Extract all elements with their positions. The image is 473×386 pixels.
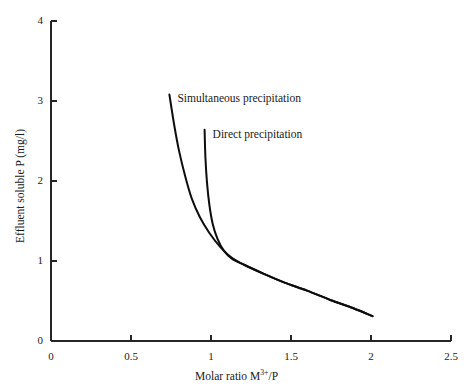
- chart-page: 01234 00.511.522.5 Simultaneous precipit…: [0, 0, 473, 386]
- x-tick-label: 0: [31, 351, 71, 362]
- x-tick-label: 2: [351, 351, 391, 362]
- y-tick-label: 1: [13, 255, 43, 266]
- y-tick-label: 3: [13, 95, 43, 106]
- y-axis-title: Effluent soluble P (mg/l): [14, 129, 26, 243]
- y-tick-label: 0: [13, 335, 43, 346]
- x-axis-title-suffix: /P: [268, 370, 278, 382]
- x-axis-ticks: [131, 335, 451, 341]
- x-tick-label: 2.5: [431, 351, 471, 362]
- x-axis-title-prefix: Molar ratio M: [195, 370, 260, 382]
- plot-area: [0, 0, 473, 386]
- curve-label-direct-precipitation: Direct precipitation: [213, 128, 303, 140]
- x-tick-label: 0.5: [111, 351, 151, 362]
- x-tick-label: 1: [191, 351, 231, 362]
- x-axis-title: Molar ratio M3+/P: [0, 370, 473, 382]
- curve-label-simultaneous-precipitation: Simultaneous precipitation: [177, 92, 301, 104]
- y-tick-label: 4: [13, 15, 43, 26]
- y-axis-ticks: [51, 21, 57, 341]
- axes-group: [51, 21, 451, 341]
- x-tick-label: 1.5: [271, 351, 311, 362]
- curve-direct-precipitation: [205, 130, 373, 316]
